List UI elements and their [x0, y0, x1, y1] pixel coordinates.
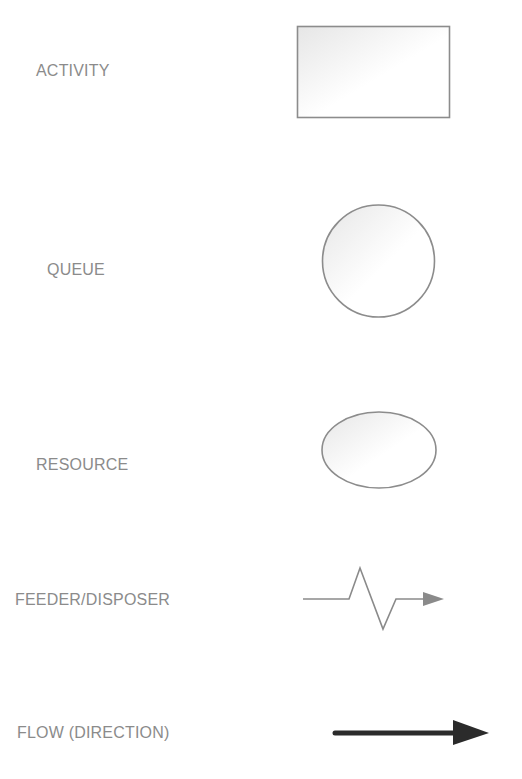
feeder-disposer-icon: [303, 568, 444, 629]
feeder-disposer-label: FEEDER/DISPOSER: [15, 592, 170, 608]
queue-circle-icon: [323, 205, 435, 317]
activity-rectangle-icon: [298, 27, 450, 118]
flow-direction-arrow-icon: [335, 720, 489, 745]
queue-label: QUEUE: [47, 262, 105, 278]
activity-label: ACTIVITY: [36, 63, 110, 79]
resource-ellipse-icon: [322, 412, 436, 488]
flow-direction-label: FLOW (DIRECTION): [17, 725, 170, 741]
legend-diagram: [0, 0, 522, 779]
resource-label: RESOURCE: [36, 457, 128, 473]
